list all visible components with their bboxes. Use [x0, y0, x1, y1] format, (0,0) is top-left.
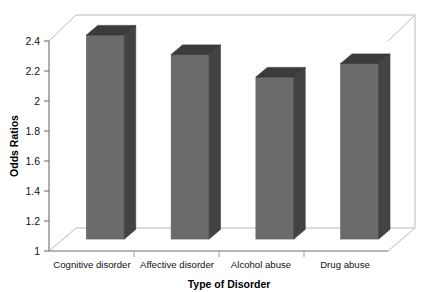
bar-chart-odds-ratios: 1 1.2 1.4 1.6 1.8 2 2.2 2.4 Cognitive di… — [0, 0, 436, 292]
x-axis-ticks — [134, 251, 304, 257]
category-label-alcohol-abuse: Alcohol abuse — [231, 259, 291, 270]
y-axis-title: Odds Ratios — [8, 115, 20, 177]
x-axis-category-labels: Cognitive disorder Affective disorder Al… — [53, 259, 369, 270]
y-tick-label-1-6: 1.6 — [25, 155, 40, 167]
bars-layer — [86, 25, 390, 239]
bar-side-face-3 — [379, 54, 390, 239]
depth-line-top-left — [49, 15, 76, 41]
y-tick-label-1-4: 1.4 — [25, 185, 40, 197]
y-tick-label-1: 1 — [34, 245, 40, 257]
y-axis-ticks — [44, 41, 49, 251]
bar-side-face-1 — [209, 45, 220, 239]
x-axis-title: Type of Disorder — [188, 278, 271, 290]
bar-front-face-1 — [171, 55, 209, 240]
category-label-affective-disorder: Affective disorder — [140, 259, 215, 270]
chart-canvas: 1 1.2 1.4 1.6 1.8 2 2.2 2.4 Cognitive di… — [0, 0, 436, 292]
category-label-drug-abuse: Drug abuse — [320, 259, 370, 270]
bar-front-face-3 — [341, 64, 379, 240]
bar-side-face-2 — [294, 67, 305, 239]
bar-3 — [341, 54, 390, 239]
y-tick-label-2-2: 2.2 — [25, 65, 40, 77]
y-tick-label-2-4: 2.4 — [25, 35, 40, 47]
bar-0 — [86, 25, 135, 239]
y-axis-tick-labels: 1 1.2 1.4 1.6 1.8 2 2.2 2.4 — [25, 35, 40, 257]
category-label-cognitive-disorder: Cognitive disorder — [53, 259, 131, 270]
bar-side-face-0 — [124, 25, 135, 239]
depth-line-top-right — [388, 15, 415, 41]
y-tick-label-1-8: 1.8 — [25, 125, 40, 137]
bar-front-face-0 — [86, 35, 124, 239]
y-tick-label-2: 2 — [34, 95, 40, 107]
y-tick-label-1-2: 1.2 — [25, 215, 40, 227]
bar-1 — [171, 45, 220, 239]
depth-line-bottom-right — [388, 228, 415, 251]
bar-2 — [256, 67, 305, 239]
bar-front-face-2 — [256, 77, 294, 239]
depth-line-bottom-left — [49, 228, 76, 251]
